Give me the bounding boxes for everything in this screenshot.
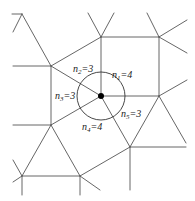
tiling-edge [159, 80, 187, 96]
tiling-edge [147, 13, 159, 37]
label-n4: n4=4 [82, 121, 102, 134]
tiling-edge [80, 176, 100, 190]
tiling-edge [13, 14, 22, 32]
polygon-count-labels: n1=4n2=3n3=3n4=4n5=3 [55, 63, 141, 134]
label-n3: n3=3 [55, 90, 75, 103]
tiling-edge [159, 37, 187, 53]
tiling-edge [80, 147, 130, 176]
tiling-edge [159, 96, 186, 143]
tiling-edge [51, 125, 80, 176]
tiling-edge [101, 13, 114, 37]
tiling-edge [22, 14, 51, 66]
tiling-edge [159, 20, 187, 37]
tiling-diagram: n1=4n2=3n3=3n4=4n5=3 [0, 0, 195, 201]
center-vertex-dot [98, 93, 104, 99]
tiling-edge [51, 37, 101, 66]
tiling-edge [130, 96, 159, 147]
label-n5: n5=3 [121, 108, 141, 121]
tiling-edge [13, 176, 22, 182]
tiling-edge [101, 96, 130, 147]
tiling-edges [12, 13, 187, 195]
label-n2: n2=3 [73, 63, 93, 76]
label-n1: n1=4 [112, 69, 132, 82]
tiling-edge [22, 125, 51, 176]
tiling-edge [88, 13, 101, 37]
tiling-edge [13, 160, 22, 176]
